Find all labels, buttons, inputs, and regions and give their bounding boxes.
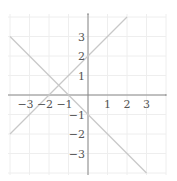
x-axis-arrow-icon bbox=[165, 94, 167, 96]
axes bbox=[8, 13, 167, 175]
y-tick-label: 1 bbox=[78, 70, 85, 83]
y-tick-label: 3 bbox=[78, 31, 85, 44]
x-tick-label: 3 bbox=[143, 98, 150, 111]
y-tick-label: −1 bbox=[69, 109, 85, 122]
x-tick-label: −2 bbox=[37, 98, 53, 111]
y-tick-label: −3 bbox=[69, 148, 85, 161]
y-tick-label: 2 bbox=[78, 50, 85, 63]
x-tick-label: 2 bbox=[124, 98, 131, 111]
y-axis-arrow-icon bbox=[87, 13, 89, 15]
x-tick-label: −3 bbox=[17, 98, 33, 111]
x-tick-label: 1 bbox=[104, 98, 111, 111]
chart: −3−2−1123 321−1−2−3 bbox=[0, 0, 177, 181]
y-tick-label: −2 bbox=[69, 128, 85, 141]
